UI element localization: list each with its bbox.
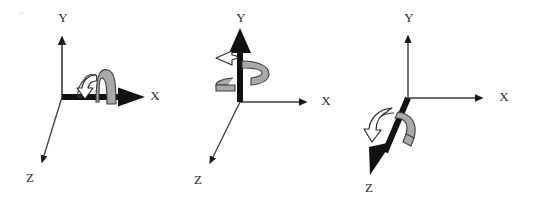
axis-label-y: Y	[58, 10, 68, 25]
hollow-rotation-arrowhead	[216, 51, 238, 65]
axis-z-line	[210, 102, 240, 163]
axis-x-arrowhead	[118, 88, 145, 107]
axis-label-z: Z	[194, 172, 202, 187]
axis-label-y: Y	[236, 10, 246, 25]
panel-rotation-about-y-axis: Y X Z	[178, 0, 356, 206]
ribbon-tail-end	[216, 85, 235, 91]
axis-x-emphasized	[62, 88, 145, 107]
axis-label-z: Z	[26, 170, 34, 185]
axis-label-y: Y	[404, 10, 414, 25]
ribbon-left-tail	[216, 78, 233, 85]
axis-label-x: X	[150, 88, 160, 103]
panel-rotation-about-x-axis: Y X Z	[0, 0, 178, 206]
figure-sheet: Y X Z	[0, 0, 536, 206]
axis-z-arrowhead	[369, 142, 392, 175]
axis-y-arrowhead	[229, 28, 251, 53]
axis-z	[210, 102, 240, 163]
ribbon-body	[242, 61, 269, 85]
axis-label-z: Z	[365, 180, 373, 195]
axis-label-x: X	[321, 93, 331, 108]
panel-rotation-about-z-axis: Y X Z	[356, 0, 534, 206]
axis-z-line	[42, 97, 62, 162]
axis-label-x: X	[499, 89, 509, 104]
axis-z	[42, 97, 62, 162]
